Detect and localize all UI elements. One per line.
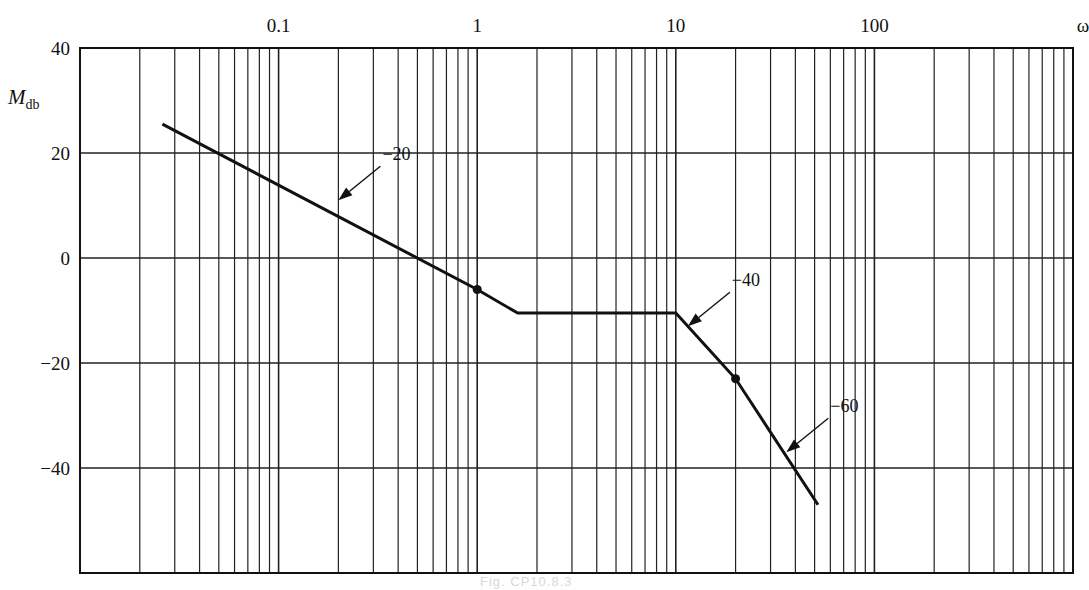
x-tick-label: 1 [472,15,482,36]
x-axis-tick-labels: 0.1110100 [267,15,889,36]
marked-point [731,374,740,383]
x-axis-label: ω [1077,15,1089,36]
slope-label: −20 [382,144,410,164]
y-tick-label: −40 [40,458,70,479]
x-tick-label: 0.1 [267,15,291,36]
plot-frame [80,48,1073,573]
marked-point [473,285,482,294]
y-tick-label: −20 [40,353,70,374]
slope-label: −60 [830,396,858,416]
x-tick-label: 10 [666,15,685,36]
vertical-gridlines [140,48,1064,573]
annotation-arrow [349,166,380,191]
y-axis-tick-labels: 40200−20−40 [40,38,70,479]
bode-magnitude-chart: 0.1110100 40200−20−40 ω Mdb −20−40−60 [0,0,1089,590]
x-tick-label: 100 [860,15,889,36]
arrowhead-icon [338,188,352,201]
figure-caption: Fig. CP10.8.3 [480,574,573,589]
horizontal-gridlines [80,48,1073,468]
arrowhead-icon [786,440,800,453]
slope-annotations: −20−40−60 [338,144,858,452]
y-tick-label: 40 [51,38,70,59]
marked-points [473,285,740,383]
slope-label: −40 [732,270,760,290]
y-tick-label: 0 [61,248,71,269]
annotation-arrow [797,418,828,443]
arrowhead-icon [688,314,702,327]
annotation-arrow [699,292,730,317]
y-axis-label: Mdb [7,85,40,112]
magnitude-curve [162,124,818,505]
y-tick-label: 20 [51,143,70,164]
